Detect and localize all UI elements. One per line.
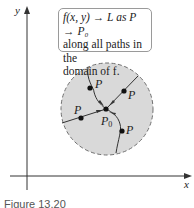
label-p: P xyxy=(94,77,103,91)
y-axis-label: y xyxy=(14,4,20,16)
callout-box: f(x, y) → L as P → P₀ along all paths in… xyxy=(58,8,152,52)
label-p: P xyxy=(127,88,136,102)
label-p: P xyxy=(73,103,82,117)
figure-caption: Figure 13.20 xyxy=(4,198,66,208)
point-p xyxy=(121,88,126,93)
point-p xyxy=(119,128,124,133)
callout-line-1: f(x, y) → L as P → P₀ xyxy=(63,11,147,38)
callout-line-2: along all paths in the xyxy=(63,38,147,65)
point-p xyxy=(87,85,92,90)
point-p0 xyxy=(103,106,108,111)
callout-line-3: domain of f. xyxy=(63,65,147,79)
y-axis-arrow-icon xyxy=(24,6,30,14)
label-p: P xyxy=(125,123,134,137)
x-axis-label: x xyxy=(183,178,189,190)
